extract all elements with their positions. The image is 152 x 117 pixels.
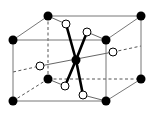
filled-atom-front-bottom-left [9,97,18,106]
top-left-depth-edge [13,16,48,40]
bottom-right-depth-edge [106,79,141,101]
bond-center-upper-back [66,24,76,60]
bond-center-upper-front [76,32,87,60]
open-atom-right [109,48,117,56]
filled-atom-back-top-right [137,12,146,21]
filled-atom-back-top-left [44,12,53,21]
open-atom-upper-front [83,28,91,36]
filled-atom-front-bottom-right [102,97,111,106]
open-atom-left [36,62,44,70]
filled-atom-front-top-left [9,36,18,45]
open-atom-lower-back [61,82,69,90]
open-atom-lower-front [79,91,87,99]
bond-center-lower-front [76,60,83,95]
filled-atom-center [72,56,81,65]
filled-atom-back-bottom-right [137,75,146,84]
filled-atom-front-top-right [102,36,111,45]
filled-atom-back-bottom-left [44,75,53,84]
bottom-left-depth-edge [13,79,48,101]
crystal-structure-diagram [0,0,152,117]
top-right-depth-edge [106,16,141,40]
open-atom-upper-back [62,20,70,28]
